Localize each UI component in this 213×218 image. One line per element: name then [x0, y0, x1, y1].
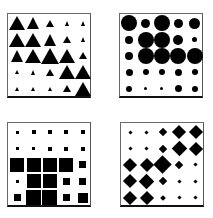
grid-cell — [25, 173, 41, 189]
triangle-icon — [75, 65, 91, 79]
grid-cell — [59, 81, 75, 97]
triangle-icon — [15, 70, 19, 74]
grid-cell — [9, 173, 25, 189]
grid-cell — [41, 81, 59, 97]
grid-cell — [59, 48, 75, 64]
circle-icon — [126, 69, 133, 76]
grid-cell — [58, 173, 74, 189]
grid-cell — [25, 140, 41, 156]
grid-cell — [42, 173, 58, 189]
circle-icon — [143, 69, 149, 75]
square-icon — [14, 194, 21, 201]
grid-cell — [42, 140, 58, 156]
grid-cell — [25, 64, 41, 80]
diamond-icon — [128, 146, 132, 150]
grid-cell — [171, 157, 187, 173]
circle-icon — [125, 52, 133, 60]
grid-cell — [9, 15, 25, 31]
grid-cell — [154, 31, 170, 47]
triangle-icon — [41, 48, 59, 64]
grid-cell — [42, 124, 58, 140]
grid-cell — [122, 140, 138, 156]
grid-cell — [122, 124, 138, 140]
square-icon — [63, 178, 70, 185]
triangle-icon — [59, 49, 75, 63]
circle-icon — [170, 48, 186, 64]
diamond-icon — [160, 195, 166, 201]
circle-icon — [187, 48, 203, 64]
grid-cell — [188, 157, 204, 173]
panel-circles — [119, 13, 203, 98]
grid-cell — [25, 190, 41, 206]
grid-cell — [171, 140, 187, 156]
circle-icon — [173, 35, 183, 45]
grid-cell — [138, 173, 154, 189]
grid-cell — [188, 124, 204, 140]
grid-cell — [9, 81, 25, 97]
grid-cell — [155, 124, 171, 140]
grid-cell — [170, 81, 186, 97]
diamond-icon — [144, 146, 148, 150]
grid-cell — [137, 31, 153, 47]
grid-cell — [75, 190, 91, 206]
triangle-icon — [31, 87, 35, 91]
triangle-icon — [63, 36, 71, 43]
square-icon — [79, 178, 86, 185]
grid-cell — [188, 140, 204, 156]
triangle-icon — [79, 52, 87, 59]
square-icon — [81, 147, 85, 151]
grid-cell — [75, 15, 91, 31]
diamond-icon — [159, 128, 167, 136]
grid-cell — [138, 157, 154, 173]
grid-cell — [138, 124, 154, 140]
grid-cell — [58, 124, 74, 140]
diamond-icon — [177, 196, 181, 200]
square-icon — [16, 131, 19, 134]
circle-icon — [154, 48, 170, 64]
grid-cell — [121, 48, 137, 64]
grid-cell — [154, 15, 170, 31]
square-icon — [59, 158, 73, 172]
grid-cell — [9, 48, 25, 64]
grid-cell — [170, 15, 186, 31]
grid-cell — [75, 48, 91, 64]
diamond-icon — [154, 156, 172, 174]
square-icon — [27, 174, 41, 188]
panel-squares — [7, 122, 91, 207]
diamond-icon — [177, 179, 181, 183]
grid-cell — [170, 64, 186, 80]
grid-cell — [25, 15, 41, 31]
circle-icon — [154, 32, 170, 48]
circle-icon — [144, 87, 147, 90]
diamonds-grid — [122, 124, 204, 206]
diamond-icon — [123, 174, 137, 188]
grid-cell — [188, 190, 204, 206]
grid-cell — [122, 190, 138, 206]
diamond-icon — [144, 130, 148, 134]
square-icon — [64, 147, 68, 151]
triangle-icon — [25, 49, 41, 63]
grid-cell — [41, 64, 59, 80]
grid-cell — [9, 64, 25, 80]
grid-cell — [75, 81, 91, 97]
circle-icon — [192, 86, 198, 92]
grid-cell — [75, 140, 91, 156]
triangle-icon — [27, 17, 39, 29]
grid-cell — [170, 48, 186, 64]
square-icon — [78, 193, 88, 203]
square-icon — [10, 158, 24, 172]
square-icon — [64, 130, 68, 134]
circle-icon — [160, 87, 163, 90]
square-icon — [63, 194, 70, 201]
triangle-icon — [46, 20, 54, 27]
grid-cell — [59, 64, 75, 80]
grid-cell — [25, 48, 41, 64]
triangle-icon — [31, 70, 35, 75]
grid-cell — [9, 31, 25, 47]
square-icon — [27, 158, 41, 172]
grid-cell — [187, 81, 203, 97]
grid-cell — [187, 15, 203, 31]
circle-icon — [121, 15, 137, 31]
grid-cell — [59, 31, 75, 47]
square-icon — [26, 190, 41, 205]
